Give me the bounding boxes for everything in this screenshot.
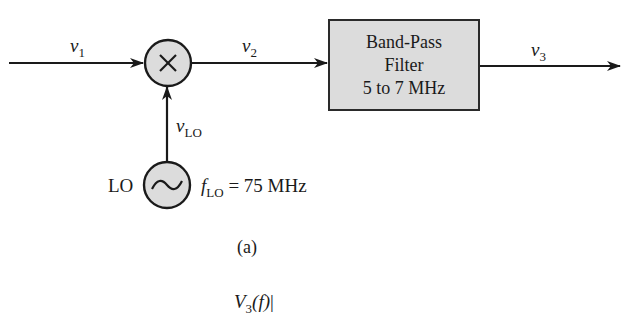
oscillator-label: LO: [108, 176, 133, 195]
signal-label-v1: v1: [70, 36, 85, 55]
filter-label-line-1: Band-Pass: [366, 31, 442, 54]
filter-label-line-2: Filter: [385, 54, 424, 77]
lo-frequency-label: fLO = 75 MHz: [201, 176, 307, 195]
signal-label-v2: v2: [242, 36, 257, 55]
signal-label-vlo: vLO: [176, 116, 202, 135]
spectrum-axis-label-partial: V3(f)|: [234, 292, 274, 311]
figure-label-a: (a): [237, 238, 257, 256]
band-pass-filter-block: Band-Pass Filter 5 to 7 MHz: [328, 19, 480, 111]
signal-label-v3: v3: [531, 40, 546, 59]
filter-label-line-3: 5 to 7 MHz: [363, 77, 446, 100]
